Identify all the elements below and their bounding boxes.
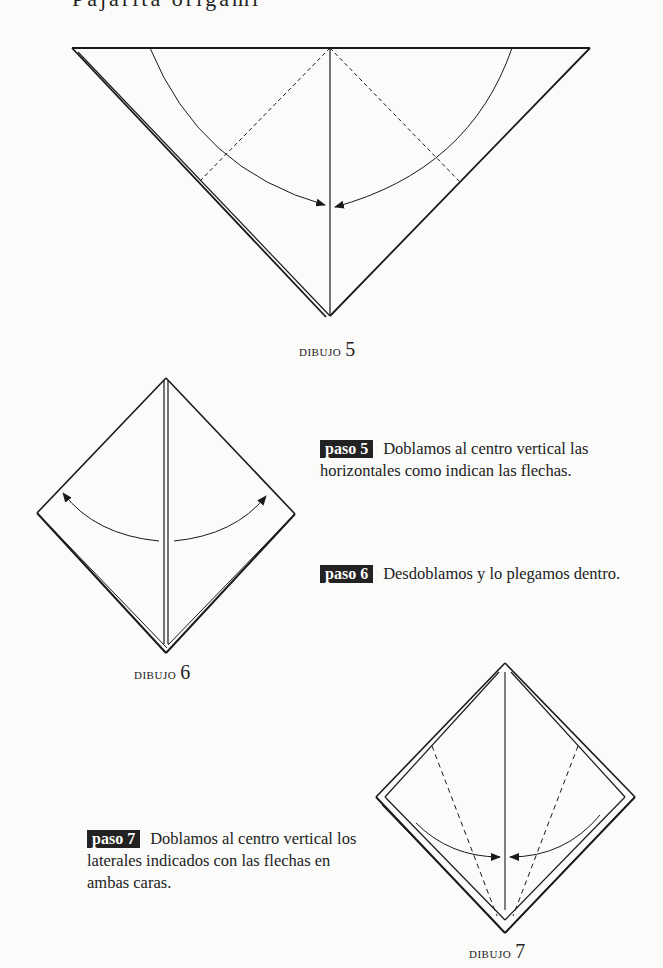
step-7: paso 7Doblamos al centro vertical los la… xyxy=(87,828,357,894)
caption-word: dibujo xyxy=(469,945,511,961)
caption-dibujo-7: dibujo7 xyxy=(469,940,526,963)
step-6: paso 6Desdoblamos y lo plegamos dentro. xyxy=(320,563,660,585)
diagram-dibujo-7 xyxy=(0,0,663,968)
step-5: paso 5Doblamos al centro vertical las ho… xyxy=(320,438,650,482)
step-badge: paso 7 xyxy=(87,830,140,848)
step-badge: paso 5 xyxy=(320,440,373,458)
step-text: Desdoblamos y lo plegamos dentro. xyxy=(383,564,620,583)
step-badge: paso 6 xyxy=(320,565,373,583)
caption-number: 7 xyxy=(515,940,526,962)
